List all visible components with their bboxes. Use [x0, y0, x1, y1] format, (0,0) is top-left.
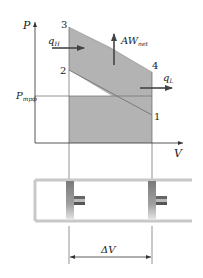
x-axis-label: V: [174, 147, 183, 160]
right-piston: [148, 181, 167, 220]
point-1-label: 1: [154, 111, 160, 122]
heat-out-label: qL: [163, 72, 173, 84]
net-work-label: AWnet: [120, 35, 149, 47]
point-3-label: 3: [61, 19, 67, 30]
reference-work-area: [69, 96, 152, 143]
y-axis-label: P: [22, 19, 31, 32]
reference-pressure-label: Pтрф: [15, 90, 37, 103]
left-piston: [66, 181, 85, 220]
heat-in-label: qH: [48, 35, 60, 47]
point-2-label: 2: [60, 65, 66, 76]
point-4-label: 4: [152, 60, 158, 71]
pv-diagram: P V 3 2 4 1 Pтрф qH AWnet qL: [0, 0, 203, 278]
cylinder: [35, 180, 192, 221]
delta-v-label: ΔV: [100, 244, 117, 255]
